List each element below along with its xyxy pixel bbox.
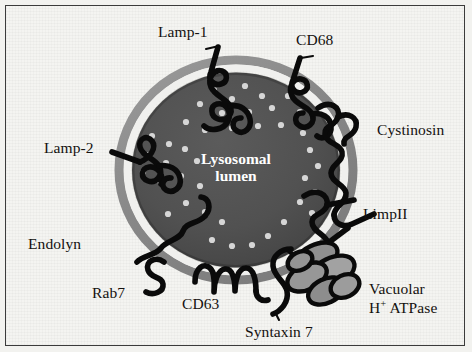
label-cd68: CD68	[296, 32, 333, 49]
label-vatpase-atpase: ATPase	[386, 299, 437, 316]
label-limp2: LimpII	[363, 206, 408, 223]
leader-syntaxin7	[276, 314, 279, 320]
label-cystinosin: Cystinosin	[377, 122, 444, 139]
protein-cd63-tail	[256, 291, 268, 301]
label-vatpase-line1: Vacuolar	[369, 281, 461, 298]
lysosome-figure: Lysosomal lumen Lamp-1 CD68 Cystinosin L…	[0, 0, 472, 352]
label-lamp1: Lamp-1	[158, 24, 208, 41]
label-rab7: Rab7	[92, 285, 125, 302]
label-cd63: CD63	[182, 296, 219, 313]
lumen-label-line2: lumen	[186, 167, 286, 184]
label-vatpase-h: H	[369, 299, 380, 316]
label-vatpase-line2: H+ ATPase	[369, 298, 461, 317]
label-endolyn: Endolyn	[28, 236, 81, 253]
lumen-label: Lysosomal lumen	[186, 150, 286, 185]
lumen-label-line1: Lysosomal	[186, 150, 286, 167]
label-syntaxin7: Syntaxin 7	[245, 324, 313, 341]
label-vacuolar-h-atpase: Vacuolar H+ ATPase	[369, 281, 461, 317]
leader-cd68	[301, 56, 313, 58]
protein-rab7	[146, 259, 164, 293]
label-lamp2: Lamp-2	[44, 140, 94, 157]
